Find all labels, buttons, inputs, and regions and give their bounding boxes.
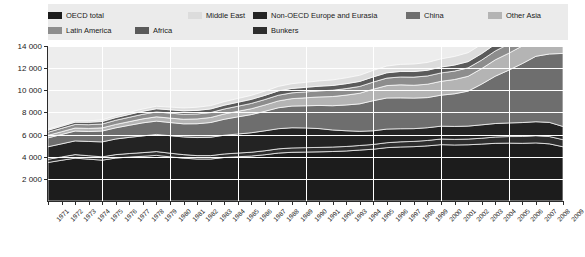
x-axis-tick [292,201,293,205]
legend-swatch-icon [188,12,202,19]
legend-item-middle-east[interactable]: Middle East [188,8,245,22]
x-axis-label: 1995 [380,207,395,222]
x-axis-tick [414,201,415,205]
x-axis-tick [129,201,130,205]
x-axis-tick [373,201,374,205]
legend-item-other-asia[interactable]: Other Asia [488,8,541,22]
legend-item-latin-america[interactable]: Latin America [48,23,111,37]
x-axis-tick [156,201,157,205]
x-axis-tick [265,201,266,205]
legend-item-label: Bunkers [271,26,299,35]
x-axis-label: 1974 [95,207,110,222]
x-axis-tick [468,201,469,205]
x-axis-label: 2006 [529,207,544,222]
x-axis-tick [75,201,76,205]
x-axis-label: 1990 [312,207,327,222]
x-axis-label: 1980 [177,207,192,222]
x-axis-label: 1988 [285,207,300,222]
legend-swatch-icon [253,12,267,19]
legend-item-africa[interactable]: Africa [135,23,172,37]
x-axis-label: 1996 [394,207,409,222]
gridline-vertical [306,46,307,201]
y-axis-tick [44,135,48,136]
y-axis-tick [44,157,48,158]
x-axis-tick [251,201,252,205]
x-axis-label: 1981 [190,207,205,222]
y-axis-label: 12 000 [18,64,42,73]
legend-item-bunkers[interactable]: Bunkers [253,23,299,37]
legend-swatch-icon [253,27,267,34]
chart-legend: OECD totalMiddle EastNon-OECD Europe and… [48,4,568,40]
x-axis-tick [482,201,483,205]
x-axis-tick [536,201,537,205]
x-axis-tick [278,201,279,205]
x-axis-label: 2005 [516,207,531,222]
gridline-vertical [441,46,442,201]
legend-item-china[interactable]: China [406,8,444,22]
legend-item-label: Non-OECD Europe and Eurasia [271,11,377,20]
x-axis-tick [522,201,523,205]
x-axis-label: 2008 [556,207,571,222]
x-axis-tick [346,201,347,205]
x-axis-tick [211,201,212,205]
x-axis-label: 1972 [68,207,83,222]
x-axis-tick [89,201,90,205]
x-axis-tick [400,201,401,205]
x-axis-label: 1982 [204,207,219,222]
x-axis-label: 1975 [109,207,124,222]
legend-item-label: Latin America [66,26,111,35]
x-axis-label: 2001 [461,207,476,222]
gridline-vertical [238,46,239,201]
plot-area: 2 0004 0006 0008 00010 00012 00014 00019… [48,46,563,201]
legend-swatch-icon [48,27,62,34]
x-axis-label: 1998 [421,207,436,222]
y-axis-label: 14 000 [18,42,42,51]
x-axis-label: 1999 [434,207,449,222]
x-axis-label: 2003 [488,207,503,222]
legend-swatch-icon [48,12,62,19]
x-axis-tick [319,201,320,205]
x-axis-label: 2004 [502,207,517,222]
x-axis-label: 2002 [475,207,490,222]
gridline-vertical [170,46,171,201]
x-axis-label: 1984 [231,207,246,222]
x-axis-tick [143,201,144,205]
x-axis-tick [441,201,442,205]
x-axis-tick [102,201,103,205]
x-axis-label: 1976 [123,207,138,222]
legend-item-label: China [424,11,444,20]
x-axis-label: 2000 [448,207,463,222]
x-axis-tick [238,201,239,205]
y-axis-label: 6 000 [22,130,42,139]
y-axis-tick [44,112,48,113]
x-axis-label: 1989 [299,207,314,222]
x-axis-tick [563,201,564,205]
x-axis-label: 1977 [136,207,151,222]
x-axis-label: 1983 [217,207,232,222]
x-axis-label: 1979 [163,207,178,222]
x-axis-tick [509,201,510,205]
x-axis-label: 1987 [272,207,287,222]
x-axis-tick [333,201,334,205]
x-axis-label: 1991 [326,207,341,222]
x-axis-label: 1992 [339,207,354,222]
y-axis-label: 2 000 [22,174,42,183]
x-axis-tick [306,201,307,205]
x-axis-tick [495,201,496,205]
x-axis-tick [170,201,171,205]
legend-item-non-oecd-europe-and-eurasia[interactable]: Non-OECD Europe and Eurasia [253,8,377,22]
x-axis-label: 1978 [150,207,165,222]
x-axis-label: 1973 [82,207,97,222]
x-axis-tick [184,201,185,205]
x-axis-tick [48,201,49,205]
gridline-vertical [509,46,510,201]
x-axis-label: 1971 [55,207,70,222]
y-axis-tick [44,90,48,91]
legend-item-label: Other Asia [506,11,541,20]
gridline-vertical [373,46,374,201]
legend-row-1: OECD totalMiddle EastNon-OECD Europe and… [48,8,568,22]
x-axis-label: 1993 [353,207,368,222]
legend-item-oecd-total[interactable]: OECD total [48,8,104,22]
x-axis-label: 1994 [367,207,382,222]
x-axis-tick [116,201,117,205]
